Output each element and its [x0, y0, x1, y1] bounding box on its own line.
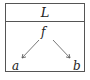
- node-b: b: [73, 60, 81, 72]
- arrow-f-to-a: [22, 40, 39, 58]
- arrow-f-to-b: [53, 40, 70, 58]
- node-a: a: [12, 60, 19, 72]
- node-f: f: [41, 26, 45, 38]
